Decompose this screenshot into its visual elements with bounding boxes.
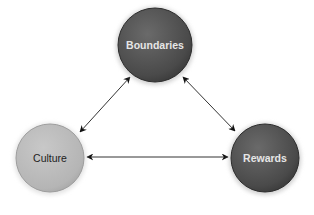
arrow-culture-boundaries: [80, 77, 130, 132]
relationship-diagram: Boundaries Culture Rewards: [0, 0, 314, 215]
node-label-culture: Culture: [33, 152, 67, 164]
node-label-boundaries: Boundaries: [126, 39, 184, 51]
node-boundaries: Boundaries: [116, 7, 194, 85]
arrow-boundaries-rewards: [183, 77, 235, 131]
node-label-rewards: Rewards: [243, 152, 287, 164]
node-rewards: Rewards: [229, 123, 301, 195]
node-culture: Culture: [14, 123, 86, 195]
